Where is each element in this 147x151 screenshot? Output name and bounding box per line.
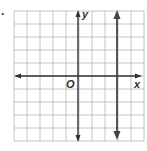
x-axis-label: x	[133, 78, 141, 90]
coordinate-graph: y x O	[0, 0, 147, 151]
y-axis-label: y	[81, 8, 89, 20]
vertical-line-x-3	[114, 10, 121, 140]
origin-label: O	[66, 78, 75, 90]
